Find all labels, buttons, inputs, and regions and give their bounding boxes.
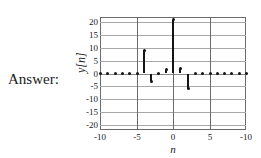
stem-marker — [157, 72, 160, 75]
stem-line — [172, 20, 174, 74]
y-tick-label: 5 — [94, 57, 99, 66]
x-axis-title: n — [100, 144, 246, 155]
y-tick-label: 20 — [89, 18, 98, 27]
y-tick-label: -20 — [86, 121, 98, 130]
stem-marker — [128, 72, 131, 75]
stem-marker — [216, 72, 219, 75]
stem-marker — [194, 72, 197, 75]
x-tick-label: -5 — [133, 133, 141, 142]
y-tick-label: -5 — [91, 82, 99, 91]
stem-marker — [245, 72, 248, 75]
y-tick-label: 15 — [89, 31, 98, 40]
stem-marker — [136, 72, 139, 75]
stem-marker — [106, 72, 109, 75]
x-tick-label: -10 — [240, 133, 252, 142]
y-tick-label: 0 — [94, 70, 99, 79]
stem-marker — [121, 72, 124, 75]
stem-marker — [179, 67, 182, 70]
stem-line — [143, 50, 145, 73]
stem-marker — [150, 80, 153, 83]
stem-marker — [172, 18, 175, 21]
stem-marker — [165, 68, 168, 71]
stem-marker — [230, 72, 233, 75]
figure: Answer: y[n] 20151050-5-10-15-20 -10-505… — [0, 0, 261, 158]
plot-area — [100, 17, 246, 130]
stem-marker — [223, 72, 226, 75]
stem-marker — [201, 72, 204, 75]
y-axis-tick-labels: 20151050-5-10-15-20 — [78, 17, 98, 130]
stem-marker — [99, 72, 102, 75]
y-tick-label: -10 — [86, 95, 98, 104]
stem-marker — [114, 72, 117, 75]
y-tick-label: -15 — [86, 108, 98, 117]
answer-label: Answer: — [8, 72, 59, 87]
x-tick-label: -10 — [94, 133, 106, 142]
x-tick-label: 5 — [208, 133, 213, 142]
x-tick-label: 0 — [171, 133, 176, 142]
stem-marker — [209, 72, 212, 75]
stem-marker — [143, 49, 146, 52]
y-tick-label: 10 — [89, 44, 98, 53]
stem-marker — [238, 72, 241, 75]
